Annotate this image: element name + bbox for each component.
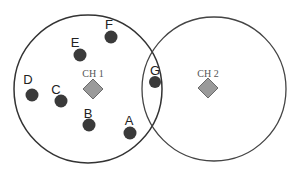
node-C: C: [51, 82, 67, 108]
node-label: G: [150, 63, 160, 78]
node-label: A: [125, 113, 134, 128]
node-dot: [105, 31, 118, 44]
node-dot: [124, 127, 137, 140]
node-D: D: [23, 72, 38, 102]
cluster-head-2: CH 2: [197, 68, 218, 98]
node-B: B: [83, 106, 96, 132]
node-label: B: [84, 106, 93, 121]
node-label: E: [71, 35, 80, 50]
node-label: F: [105, 17, 113, 32]
node-G: G: [149, 63, 161, 88]
diamond-icon: [83, 79, 103, 99]
node-E: E: [71, 35, 87, 62]
node-dot: [74, 49, 87, 62]
node-label: C: [51, 82, 60, 97]
node-dot: [26, 89, 39, 102]
cluster-head-1: CH 1: [82, 68, 103, 99]
ch1-label: CH 1: [82, 68, 103, 79]
cluster-diagram: CH 1 CH 2 A B C D E F G: [0, 0, 295, 176]
node-A: A: [124, 113, 137, 140]
node-label: D: [23, 72, 32, 87]
diamond-icon: [198, 78, 218, 98]
